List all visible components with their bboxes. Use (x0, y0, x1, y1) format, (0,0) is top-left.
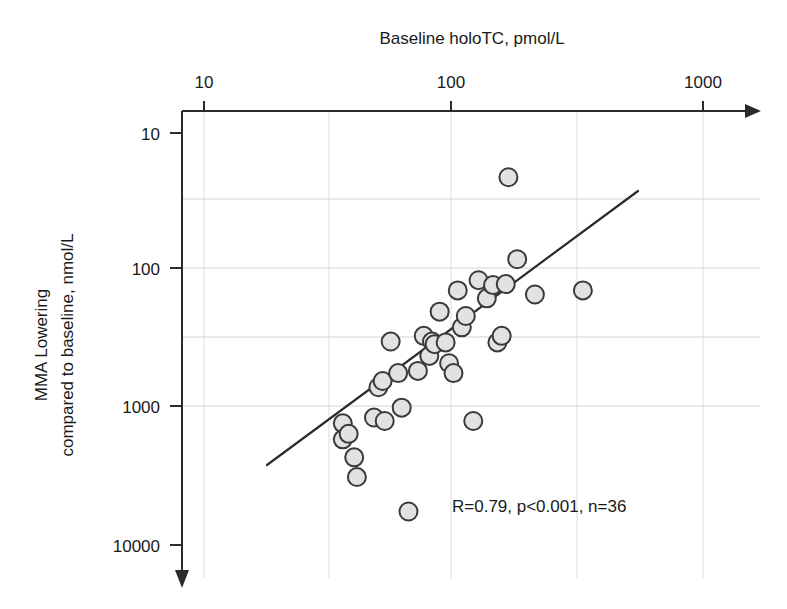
data-point (445, 364, 463, 382)
x-axis-arrow (745, 104, 761, 118)
data-point (574, 281, 592, 299)
data-point (457, 307, 475, 325)
data-point (431, 303, 449, 321)
data-point (382, 333, 400, 351)
data-point (393, 399, 411, 417)
data-point (493, 327, 511, 345)
scatter-plot-canvas: 10 100 1000 10 100 1000 10000 Baseline h… (0, 0, 787, 609)
y-tick-labels: 10 100 1000 10000 (113, 125, 160, 556)
data-point (348, 468, 366, 486)
data-point (526, 286, 544, 304)
x-tick-label-2: 1000 (684, 73, 722, 92)
y-axis-title-line2: compared to baseline, nmol/L (58, 233, 77, 456)
data-point (508, 250, 526, 268)
statistics-annotation: R=0.79, p<0.001, n=36 (452, 497, 626, 516)
data-point (389, 364, 407, 382)
y-tick-label-2: 1000 (122, 398, 160, 417)
data-point (376, 412, 394, 430)
data-point (497, 275, 515, 293)
y-axis-arrow (175, 570, 189, 588)
data-point (340, 425, 358, 443)
y-tick-label-1: 100 (132, 260, 160, 279)
data-point (399, 502, 417, 520)
x-tick-labels: 10 100 1000 (195, 73, 722, 92)
x-tick-label-0: 10 (195, 73, 214, 92)
x-axis-title: Baseline holoTC, pmol/L (379, 29, 564, 48)
data-point (499, 168, 517, 186)
data-point (464, 412, 482, 430)
y-tick-label-3: 10000 (113, 537, 160, 556)
x-tick-label-1: 100 (437, 73, 465, 92)
chart-figure: 10 100 1000 10 100 1000 10000 Baseline h… (0, 0, 787, 609)
y-axis-title-line1: MMA Lowering (32, 289, 51, 401)
data-point (437, 333, 455, 351)
data-point (345, 448, 363, 466)
scatter-points-group (334, 168, 592, 520)
y-tick-label-0: 10 (141, 125, 160, 144)
data-point (449, 281, 467, 299)
data-point (409, 362, 427, 380)
